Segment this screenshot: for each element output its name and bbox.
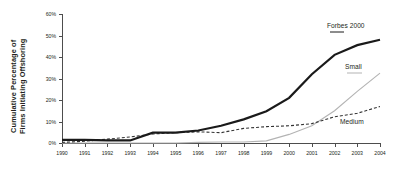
series-line-small [62,73,380,143]
annotation-forbes-2000: Forbes 2000 [327,22,365,29]
annotation-small: Small [345,63,362,70]
series-line-forbes-2000 [62,40,380,141]
offshoring-line-chart: Cumulative Percentage of Firms Initiatin… [0,0,397,173]
annotation-medium: Medium [340,118,364,125]
